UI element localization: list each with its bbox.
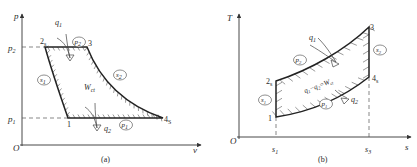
hatch-mark bbox=[287, 77, 292, 81]
s3-axis-label: s3 bbox=[365, 145, 371, 155]
hatch-mark bbox=[363, 51, 369, 55]
hatch-mark bbox=[276, 106, 282, 110]
hatch-mark bbox=[332, 94, 338, 98]
hatch-mark bbox=[309, 67, 315, 71]
panel-b-caption: (b) bbox=[318, 155, 328, 164]
hatch-mark bbox=[363, 35, 369, 39]
heat-out-arrowhead-b bbox=[341, 98, 349, 104]
circled-label-s2-b: s2 bbox=[374, 45, 387, 55]
work-label: Wct bbox=[84, 83, 95, 93]
hatch-mark bbox=[302, 71, 308, 75]
v-axis-label: v bbox=[193, 145, 197, 155]
circled-label-s1-b: s1 bbox=[259, 95, 272, 105]
hatch-mark bbox=[357, 38, 364, 40]
circled-label-s1: s1 bbox=[38, 75, 51, 85]
hatch-mark bbox=[352, 82, 358, 85]
hatch-mark bbox=[280, 110, 285, 115]
p-axis-label: p bbox=[13, 11, 19, 21]
heat-out-label: q2 bbox=[104, 124, 111, 134]
hatch-mark bbox=[288, 109, 293, 114]
hatch-mark bbox=[276, 82, 282, 86]
cycle-path-pv bbox=[45, 47, 163, 118]
hatch-mark bbox=[303, 105, 308, 110]
hatch-mark bbox=[316, 64, 322, 68]
circled-label-p1-b: p1 bbox=[320, 99, 333, 109]
state-2s-label-b: 2s bbox=[266, 77, 273, 87]
circled-label-p1: p1 bbox=[120, 120, 133, 130]
panel-b-ts-diagram: T s O s1 s3 2s 3 4s 1 q1 q2 q1−q2=Wct p2… bbox=[227, 13, 411, 164]
hatch-mark bbox=[324, 60, 330, 63]
circled-label-p2: p2 bbox=[73, 37, 86, 47]
p2-axis-label: p2 bbox=[7, 43, 16, 54]
hatch-mark bbox=[350, 43, 356, 46]
circled-label-p2-b: p2 bbox=[294, 55, 307, 65]
hatch-mark bbox=[363, 43, 369, 47]
hatch-mark bbox=[337, 52, 343, 55]
panel-a-pv-diagram: p v O p2 p1 2s 3 4S 1 q1 q2 Wct p2 p1 s1… bbox=[7, 11, 201, 164]
hatch-mark bbox=[280, 80, 285, 85]
hatch-mark bbox=[295, 107, 300, 112]
p1-axis-label: p1 bbox=[7, 114, 16, 125]
s-axis-label: s bbox=[405, 142, 409, 152]
hatch-mark bbox=[344, 47, 350, 50]
origin-label-b: O bbox=[230, 136, 237, 146]
state-1-label-b: 1 bbox=[268, 114, 272, 123]
s1-axis-label: s1 bbox=[272, 145, 278, 155]
hatch-mark bbox=[310, 103, 315, 107]
heat-out-label-b: q2 bbox=[351, 95, 358, 105]
state-3-label: 3 bbox=[88, 39, 92, 48]
heat-in-arrow-2 bbox=[66, 34, 70, 58]
origin-label: O bbox=[13, 143, 20, 153]
heat-in-label: q1 bbox=[55, 18, 62, 28]
panel-a-caption: (a) bbox=[101, 155, 110, 164]
hatch-mark bbox=[363, 67, 369, 71]
hatch-mark bbox=[345, 86, 351, 89]
heat-in-arrow-b bbox=[310, 45, 336, 62]
hatch-mark bbox=[276, 98, 282, 102]
hatch-mark bbox=[276, 90, 282, 94]
state-3-label-b: 3 bbox=[370, 23, 374, 32]
circled-label-s2: s2 bbox=[114, 70, 127, 80]
state-2s-label: 2s bbox=[40, 37, 47, 47]
hatch-mark bbox=[295, 74, 301, 78]
state-4s-label: 4S bbox=[164, 115, 171, 125]
t-axis-label: T bbox=[227, 13, 233, 23]
work-equation-label: q1−q2=Wct bbox=[303, 77, 335, 96]
state-4s-label-b: 4s bbox=[372, 74, 379, 84]
heat-in-label-b: q1 bbox=[309, 33, 316, 43]
hatch-mark bbox=[363, 59, 369, 63]
brayton-cycle-figure: p v O p2 p1 2s 3 4S 1 q1 q2 Wct p2 p1 s1… bbox=[0, 0, 417, 167]
state-1-label: 1 bbox=[67, 120, 71, 129]
